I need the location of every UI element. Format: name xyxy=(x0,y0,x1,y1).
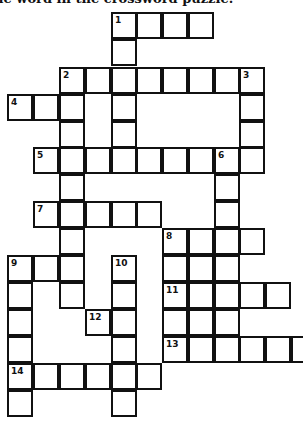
crossword-cell[interactable] xyxy=(136,363,162,390)
crossword-cell[interactable] xyxy=(188,336,214,363)
crossword-cell[interactable] xyxy=(214,174,240,201)
crossword-cell[interactable] xyxy=(239,228,265,255)
crossword-cell[interactable] xyxy=(59,201,85,228)
crossword-cell[interactable] xyxy=(111,282,137,309)
crossword-cell[interactable] xyxy=(291,336,303,363)
crossword-cell[interactable] xyxy=(188,309,214,336)
crossword-cell[interactable]: 5 xyxy=(33,147,59,174)
crossword-cell[interactable] xyxy=(59,94,85,121)
crossword-cell[interactable] xyxy=(85,147,111,174)
crossword-cell[interactable] xyxy=(162,255,188,282)
crossword-cell[interactable] xyxy=(214,67,240,94)
crossword-cell[interactable] xyxy=(33,255,59,282)
crossword-cell[interactable] xyxy=(111,201,137,228)
crossword-cell[interactable] xyxy=(85,201,111,228)
clue-number: 8 xyxy=(166,231,172,241)
clue-number: 7 xyxy=(37,204,43,214)
crossword-cell[interactable]: 4 xyxy=(7,94,33,121)
clue-number: 9 xyxy=(11,258,17,268)
crossword-cell[interactable] xyxy=(111,336,137,363)
crossword-cell[interactable] xyxy=(188,147,214,174)
crossword-cell[interactable] xyxy=(188,67,214,94)
crossword-cell[interactable] xyxy=(111,67,137,94)
crossword-cell[interactable] xyxy=(85,67,111,94)
crossword-cell[interactable]: 12 xyxy=(85,309,111,336)
clue-number: 2 xyxy=(63,70,69,80)
crossword-cell[interactable]: 6 xyxy=(214,147,240,174)
crossword-cell[interactable] xyxy=(111,147,137,174)
crossword-cell[interactable] xyxy=(162,67,188,94)
crossword-cell[interactable] xyxy=(111,94,137,121)
crossword-cell[interactable] xyxy=(136,201,162,228)
clue-number: 14 xyxy=(11,366,24,376)
crossword-cell[interactable]: 7 xyxy=(33,201,59,228)
clue-number: 6 xyxy=(218,150,224,160)
clue-number: 4 xyxy=(11,97,17,107)
clue-number: 13 xyxy=(166,339,179,349)
crossword-cell[interactable] xyxy=(59,147,85,174)
crossword-cell[interactable] xyxy=(111,363,137,390)
crossword-cell[interactable] xyxy=(33,94,59,121)
crossword-cell[interactable] xyxy=(239,147,265,174)
crossword-cell[interactable] xyxy=(136,147,162,174)
crossword-cell[interactable] xyxy=(7,282,33,309)
crossword-cell[interactable] xyxy=(239,121,265,148)
crossword-cell[interactable] xyxy=(136,12,162,39)
crossword-cell[interactable] xyxy=(214,201,240,228)
crossword-cell[interactable] xyxy=(7,309,33,336)
crossword-cell[interactable] xyxy=(59,255,85,282)
crossword-cell[interactable] xyxy=(7,390,33,417)
crossword-cell[interactable] xyxy=(59,228,85,255)
crossword-cell[interactable]: 14 xyxy=(7,363,33,390)
crossword-cell[interactable] xyxy=(188,228,214,255)
crossword-cell[interactable] xyxy=(239,336,265,363)
crossword-cell[interactable]: 2 xyxy=(59,67,85,94)
crossword-grid: 1234567891011121314 xyxy=(0,0,303,427)
crossword-cell[interactable] xyxy=(59,282,85,309)
crossword-cell[interactable] xyxy=(59,363,85,390)
crossword-cell[interactable]: 13 xyxy=(162,336,188,363)
crossword-cell[interactable] xyxy=(239,282,265,309)
crossword-cell[interactable] xyxy=(59,174,85,201)
crossword-cell[interactable] xyxy=(111,390,137,417)
crossword-cell[interactable] xyxy=(214,255,240,282)
crossword-cell[interactable]: 10 xyxy=(111,255,137,282)
crossword-cell[interactable] xyxy=(188,282,214,309)
crossword-cell[interactable] xyxy=(111,121,137,148)
crossword-cell[interactable] xyxy=(136,67,162,94)
clue-number: 1 xyxy=(115,15,121,25)
crossword-cell[interactable] xyxy=(7,336,33,363)
crossword-cell[interactable] xyxy=(162,147,188,174)
crossword-cell[interactable] xyxy=(265,336,291,363)
clue-number: 5 xyxy=(37,150,43,160)
crossword-cell[interactable] xyxy=(214,336,240,363)
clue-number: 3 xyxy=(243,70,249,80)
crossword-cell[interactable] xyxy=(214,309,240,336)
clue-number: 12 xyxy=(89,312,102,322)
crossword-cell[interactable] xyxy=(214,282,240,309)
crossword-cell[interactable] xyxy=(33,363,59,390)
crossword-cell[interactable] xyxy=(162,309,188,336)
crossword-cell[interactable] xyxy=(265,282,291,309)
crossword-cell[interactable] xyxy=(59,121,85,148)
crossword-cell[interactable]: 1 xyxy=(111,12,137,39)
crossword-cell[interactable]: 9 xyxy=(7,255,33,282)
crossword-cell[interactable] xyxy=(188,12,214,39)
crossword-cell[interactable]: 11 xyxy=(162,282,188,309)
crossword-cell[interactable] xyxy=(162,12,188,39)
crossword-cell[interactable] xyxy=(111,39,137,66)
crossword-cell[interactable]: 8 xyxy=(162,228,188,255)
crossword-cell[interactable] xyxy=(188,255,214,282)
crossword-cell[interactable] xyxy=(85,363,111,390)
crossword-cell[interactable]: 3 xyxy=(239,67,265,94)
clue-number: 10 xyxy=(115,258,128,268)
crossword-cell[interactable] xyxy=(111,309,137,336)
crossword-cell[interactable] xyxy=(239,94,265,121)
crossword-cell[interactable] xyxy=(214,228,240,255)
clue-number: 11 xyxy=(166,285,179,295)
